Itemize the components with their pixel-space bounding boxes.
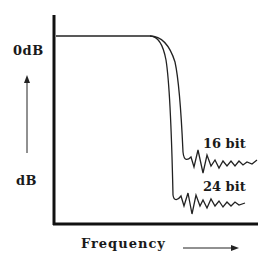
y-axis-label: dB <box>16 173 37 188</box>
y-axis-top-label: 0dB <box>13 43 44 58</box>
x-axis-label: Frequency <box>81 236 166 251</box>
up-arrow-icon <box>24 75 30 153</box>
filter-response-diagram: 0dB dB 16 bit 24 bit Frequency <box>0 0 271 269</box>
curve-label-24-bit: 24 bit <box>203 179 246 194</box>
right-arrow-icon <box>183 245 239 251</box>
curve-label-16-bit: 16 bit <box>203 136 246 151</box>
plot-area <box>0 0 271 269</box>
curve-16-bit <box>150 36 257 173</box>
